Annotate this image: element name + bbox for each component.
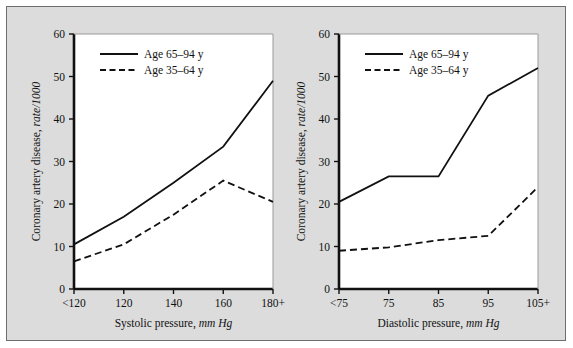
y-tick-label: 10 bbox=[54, 241, 66, 253]
y-tick-label: 60 bbox=[319, 28, 331, 40]
y-tick-label: 50 bbox=[54, 71, 66, 83]
y-tick-label: 40 bbox=[319, 113, 331, 125]
y-tick-label: 40 bbox=[54, 113, 66, 125]
legend-label-2: Age 35–64 y bbox=[144, 64, 204, 77]
x-tick-label: <75 bbox=[330, 297, 348, 309]
x-axis-title: Systolic pressure, mm Hg bbox=[115, 317, 233, 330]
y-axis-title: Coronary artery disease, rate/1000 bbox=[295, 81, 308, 241]
legend-label-1: Age 65–94 y bbox=[409, 48, 469, 61]
y-tick-label: 0 bbox=[59, 283, 65, 295]
systolic-line-chart: 0102030405060<120120140160180+Coronary a… bbox=[7, 7, 293, 343]
y-tick-label: 20 bbox=[319, 198, 331, 210]
legend-label-1: Age 65–94 y bbox=[144, 48, 204, 61]
legend-label-2: Age 35–64 y bbox=[409, 64, 469, 77]
y-tick-label: 0 bbox=[324, 283, 330, 295]
y-tick-label: 10 bbox=[319, 241, 331, 253]
diastolic-line-chart: 0102030405060<75758595105+Coronary arter… bbox=[293, 7, 573, 343]
x-tick-label: 105+ bbox=[526, 297, 550, 309]
y-tick-label: 30 bbox=[54, 156, 66, 168]
figure-frame: 0102030405060<120120140160180+Coronary a… bbox=[6, 6, 566, 341]
x-axis-title: Diastolic pressure, mm Hg bbox=[377, 317, 499, 330]
y-tick-label: 60 bbox=[54, 28, 66, 40]
chart-panel-diastolic: 0102030405060<75758595105+Coronary arter… bbox=[293, 7, 573, 340]
x-tick-label: <120 bbox=[62, 297, 86, 309]
y-tick-label: 30 bbox=[319, 156, 331, 168]
x-tick-label: 95 bbox=[483, 297, 495, 309]
x-tick-label: 120 bbox=[115, 297, 133, 309]
x-tick-label: 85 bbox=[433, 297, 445, 309]
chart-panel-systolic: 0102030405060<120120140160180+Coronary a… bbox=[7, 7, 293, 340]
x-tick-label: 140 bbox=[165, 297, 183, 309]
y-axis-title: Coronary artery disease, rate/1000 bbox=[30, 81, 43, 241]
x-tick-label: 180+ bbox=[261, 297, 285, 309]
x-tick-label: 160 bbox=[215, 297, 233, 309]
y-tick-label: 20 bbox=[54, 198, 66, 210]
x-tick-label: 75 bbox=[383, 297, 395, 309]
y-tick-label: 50 bbox=[319, 71, 331, 83]
figure-container: 0102030405060<120120140160180+Coronary a… bbox=[0, 0, 573, 348]
